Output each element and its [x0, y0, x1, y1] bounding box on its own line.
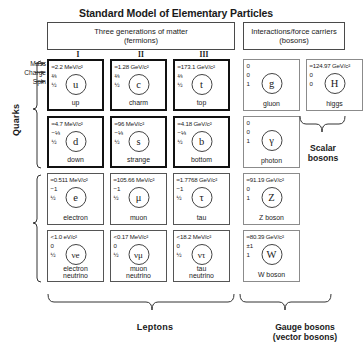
electron-charge: −1: [51, 185, 58, 192]
group-label-quarks: Quarks: [11, 90, 21, 150]
annotation-mass: Mass: [30, 60, 46, 67]
particle-cell-top[interactable]: ≈173.1 GeV/c² ⅔ ½ t top: [173, 59, 230, 111]
charm-symbol: c: [128, 74, 149, 95]
electron-spin: ½: [51, 194, 56, 201]
annotation-charge: Charge: [24, 69, 46, 76]
muon-name: muon: [111, 214, 166, 222]
banner-fermions-line1: Three generations of matter: [94, 27, 188, 36]
zboson-symbol: Z: [261, 187, 282, 208]
particle-cell-electron[interactable]: ≈0.511 MeV/c² −1 ½ e electron: [47, 173, 104, 225]
up-symbol: u: [65, 74, 86, 95]
photon-mass: 0: [247, 119, 250, 126]
particle-cell-photon[interactable]: 0 0 1 γ photon: [243, 116, 300, 168]
particle-cell-higgs[interactable]: ≈124.97 GeV/c² 0 0 H higgs: [306, 59, 363, 111]
tau-charge: −1: [177, 185, 184, 192]
up-mass: ≈2.2 MeV/c²: [52, 63, 83, 70]
zboson-spin: 1: [247, 194, 250, 201]
higgs-spin: 0: [310, 80, 313, 87]
up-charge: ⅔: [52, 72, 57, 79]
muon-mass: ≈105.66 MeV/c²: [114, 176, 155, 183]
wboson-charge: ±1: [247, 242, 254, 249]
zboson-charge: 0: [247, 185, 250, 192]
generation-label-1: I: [47, 50, 109, 59]
higgs-name: higgs: [307, 100, 362, 108]
muon-charge: −1: [114, 185, 121, 192]
particle-cell-strange[interactable]: ≈96 MeV/c² −⅓ ½ s strange: [110, 116, 167, 168]
particle-cell-muon[interactable]: ≈105.66 MeV/c² −1 ½ μ muon: [110, 173, 167, 225]
group-label-gauge-bosons: Gauge bosons (vector bosons): [258, 322, 352, 342]
muon-neutrino-name-line2: neutrino: [111, 272, 166, 280]
header-banners: Three generations of matter (fermions) I…: [47, 22, 345, 50]
particle-cell-w-boson[interactable]: ≈80.39 GeV/c² ±1 1 W W boson: [243, 230, 300, 282]
bottom-charge: −⅓: [178, 129, 187, 136]
wboson-mass: ≈80.39 GeV/c²: [247, 233, 284, 240]
tau-name: tau: [174, 214, 229, 222]
particle-cell-charm[interactable]: ≈1.28 GeV/c² ⅔ ½ c charm: [110, 59, 167, 111]
wboson-name: W boson: [244, 271, 299, 279]
electron-neutrino-mass: <1.0 eV/c²: [51, 233, 77, 240]
gluon-spin: 1: [247, 80, 250, 87]
electron-symbol: e: [65, 187, 86, 208]
particle-cell-tau-neutrino[interactable]: <18.2 MeV/c² 0 ½ ντ tau neutrino: [173, 230, 230, 282]
wboson-symbol: W: [261, 244, 282, 265]
particle-cell-down[interactable]: ≈4.7 MeV/c² −⅓ ½ d down: [47, 116, 104, 168]
particle-cell-muon-neutrino[interactable]: <0.17 MeV/c² 0 ½ νμ muon neutrino: [110, 230, 167, 282]
top-charge: ⅔: [178, 72, 183, 79]
banner-bosons: Interactions/force carriers (bosons): [243, 22, 345, 50]
page-title: Standard Model of Elementary Particles: [0, 7, 352, 19]
gluon-name: gluon: [244, 100, 299, 108]
strange-mass: ≈96 MeV/c²: [115, 120, 145, 127]
banner-fermions-line2: (fermions): [124, 36, 158, 45]
strange-symbol: s: [128, 131, 149, 152]
electron-mass: ≈0.511 MeV/c²: [51, 176, 88, 183]
strange-charge: −⅓: [115, 129, 124, 136]
charm-name: charm: [112, 99, 165, 107]
particle-cell-z-boson[interactable]: ≈91.19 GeV/c² 0 1 Z Z boson: [243, 173, 300, 225]
muon-neutrino-symbol: νμ: [128, 244, 149, 265]
particle-cell-electron-neutrino[interactable]: <1.0 eV/c² 0 ½ νe electron neutrino: [47, 230, 104, 282]
tau-neutrino-name-line1: tau: [174, 265, 229, 273]
down-spin: ½: [52, 138, 57, 145]
particle-cell-gluon[interactable]: 0 0 1 g gluon: [243, 59, 300, 111]
bottom-spin: ½: [178, 138, 183, 145]
strange-spin: ½: [115, 138, 120, 145]
particle-cell-up[interactable]: ≈2.2 MeV/c² ⅔ ½ u up: [47, 59, 104, 111]
tau-neutrino-mass: <18.2 MeV/c²: [177, 233, 212, 240]
charm-spin: ½: [115, 81, 120, 88]
charm-mass: ≈1.28 GeV/c²: [115, 63, 149, 70]
tau-mass: ≈1.7768 GeV/c²: [177, 176, 218, 183]
down-symbol: d: [65, 131, 86, 152]
electron-neutrino-name: electron neutrino: [48, 265, 103, 280]
down-charge: −⅓: [52, 129, 61, 136]
electron-neutrino-name-line1: electron: [48, 265, 103, 273]
muon-neutrino-mass: <0.17 MeV/c²: [114, 233, 149, 240]
photon-name: photon: [244, 157, 299, 165]
generation-label-3: III: [173, 50, 235, 59]
gauge-bosons-line2: (vector bosons): [258, 332, 352, 342]
up-name: up: [49, 99, 102, 107]
down-mass: ≈4.7 MeV/c²: [52, 120, 83, 127]
muon-neutrino-name: muon neutrino: [111, 265, 166, 280]
muon-neutrino-spin: ½: [114, 251, 119, 258]
particle-cell-bottom[interactable]: ≈4.18 GeV/c² −⅓ ½ b bottom: [173, 116, 230, 168]
particle-grid: ≈2.2 MeV/c² ⅔ ½ u up ≈1.28 GeV/c² ⅔ ½ c …: [47, 59, 345, 291]
tau-neutrino-symbol: ντ: [191, 244, 212, 265]
up-spin: ½: [52, 81, 57, 88]
wboson-spin: 1: [247, 251, 250, 258]
higgs-symbol: H: [324, 73, 345, 94]
generation-label-2: II: [110, 50, 172, 59]
muon-neutrino-charge: 0: [114, 242, 117, 249]
zboson-name: Z boson: [244, 214, 299, 222]
property-annotations: Mass Charge Spin: [0, 60, 46, 90]
electron-neutrino-symbol: νe: [65, 244, 86, 265]
particle-cell-tau[interactable]: ≈1.7768 GeV/c² −1 ½ τ tau: [173, 173, 230, 225]
bottom-symbol: b: [191, 131, 212, 152]
bottom-mass: ≈4.18 GeV/c²: [178, 120, 212, 127]
annotation-spin: Spin: [33, 78, 46, 85]
photon-spin: 1: [247, 137, 250, 144]
banner-bosons-line2: (bosons): [279, 36, 309, 45]
tau-symbol: τ: [191, 187, 212, 208]
tau-neutrino-name-line2: neutrino: [174, 272, 229, 280]
photon-symbol: γ: [261, 130, 282, 151]
bottom-name: bottom: [175, 156, 228, 164]
